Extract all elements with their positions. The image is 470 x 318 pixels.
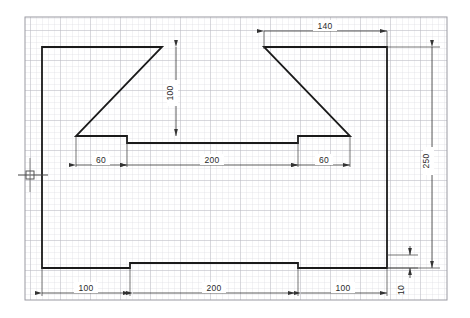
- dimension-label-140: 140: [317, 21, 332, 31]
- dimension-label-60-left: 60: [96, 155, 106, 165]
- dimension-label-100-bottom-left: 100: [78, 283, 93, 293]
- dimension-label-200-middle: 200: [204, 155, 219, 165]
- dimension-label-100-bottom-right: 100: [335, 283, 350, 293]
- technical-drawing-canvas: 140 100 60 200 60: [0, 0, 470, 318]
- dimension-label-100-vertical: 100: [165, 85, 175, 100]
- dimension-label-60-right: 60: [319, 155, 329, 165]
- graph-paper-grid: [25, 17, 447, 300]
- dimension-label-10: 10: [396, 285, 406, 295]
- dimension-label-200-bottom: 200: [206, 283, 221, 293]
- dimension-label-250: 250: [421, 153, 431, 168]
- drawing-svg: 140 100 60 200 60: [0, 0, 470, 318]
